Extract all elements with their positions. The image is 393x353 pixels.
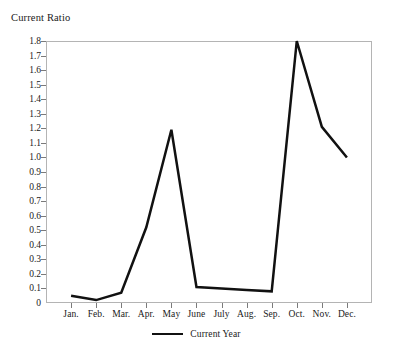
- y-axis-tick-mark: [41, 274, 46, 275]
- y-axis-tick-label: 0.7: [29, 196, 41, 206]
- chart-legend: Current Year: [0, 329, 393, 339]
- y-axis-tick-mark: [41, 114, 46, 115]
- plot-area: [46, 41, 372, 303]
- x-axis-tick-label: May: [163, 309, 181, 319]
- y-axis-tick-mark: [41, 143, 46, 144]
- x-axis-tick-mark: [171, 303, 172, 308]
- x-axis-tick-mark: [322, 303, 323, 308]
- x-axis-tick-mark: [272, 303, 273, 308]
- x-axis-tick-mark: [96, 303, 97, 308]
- legend-label-current-year: Current Year: [190, 329, 240, 339]
- x-axis-tick-mark: [146, 303, 147, 308]
- y-axis-tick-label: 1.2: [29, 123, 41, 133]
- y-axis-tick-mark: [41, 70, 46, 71]
- x-axis-tick-label: Aug.: [237, 309, 256, 319]
- x-axis-tick-label: Apr.: [138, 309, 155, 319]
- y-axis-tick-label: 0.5: [29, 225, 41, 235]
- y-axis-tick-label: 0.4: [29, 240, 41, 250]
- y-axis-tick-mark: [41, 157, 46, 158]
- y-axis-tick-mark: [41, 187, 46, 188]
- x-axis-tick-label: Jan.: [63, 309, 78, 319]
- x-axis-tick-mark: [71, 303, 72, 308]
- y-axis-tick-label: 1.1: [29, 138, 41, 148]
- x-axis-tick-label: Mar.: [112, 309, 130, 319]
- y-axis-tick-label: 0: [36, 298, 41, 308]
- y-axis-tick-label: 1.3: [29, 109, 41, 119]
- y-axis-tick-mark: [41, 56, 46, 57]
- x-axis-tick-label: Dec.: [338, 309, 356, 319]
- y-axis-tick-label: 0.1: [29, 283, 41, 293]
- x-axis-tick-mark: [297, 303, 298, 308]
- x-axis-tick-label: Nov.: [313, 309, 332, 319]
- y-axis-tick-label: 0.6: [29, 211, 41, 221]
- y-axis-tick-mark: [41, 85, 46, 86]
- x-axis-tick-mark: [247, 303, 248, 308]
- y-axis-tick-mark: [41, 216, 46, 217]
- y-axis-tick-label: 0.3: [29, 254, 41, 264]
- y-axis-tick-label: 1.8: [29, 36, 41, 46]
- y-axis-tick-label: 0.8: [29, 182, 41, 192]
- x-axis-tick-label: July: [213, 309, 229, 319]
- x-axis-tick-mark: [196, 303, 197, 308]
- y-axis-tick-mark: [41, 201, 46, 202]
- y-axis-tick-label: 1.6: [29, 65, 41, 75]
- x-axis-tick-mark: [121, 303, 122, 308]
- y-axis-tick-label: 0.2: [29, 269, 41, 279]
- legend-line-swatch: [152, 333, 183, 336]
- y-axis-tick-mark: [41, 288, 46, 289]
- y-axis-tick-label: 1.0: [29, 152, 41, 162]
- x-axis-tick-mark: [222, 303, 223, 308]
- y-axis-tick-label: 1.4: [29, 94, 41, 104]
- y-axis-tick-mark: [41, 259, 46, 260]
- y-axis-tick-labels: 1.81.71.61.51.41.31.21.11.00.90.80.70.60…: [0, 0, 41, 353]
- y-axis-tick-label: 0.9: [29, 167, 41, 177]
- y-axis-tick-mark: [41, 245, 46, 246]
- y-axis-tick-label: 1.5: [29, 80, 41, 90]
- x-axis-tick-label: Feb.: [88, 309, 105, 319]
- x-axis-tick-mark: [347, 303, 348, 308]
- y-axis-tick-label: 1.7: [29, 51, 41, 61]
- y-axis-tick-mark: [41, 99, 46, 100]
- y-axis-tick-mark: [41, 230, 46, 231]
- chart-figure: Current Ratio 1.81.71.61.51.41.31.21.11.…: [0, 0, 393, 353]
- y-axis-tick-mark: [41, 128, 46, 129]
- x-axis-tick-label: Oct.: [289, 309, 306, 319]
- y-axis-tick-mark: [41, 41, 46, 42]
- x-axis-tick-label: Sep.: [263, 309, 280, 319]
- y-axis-tick-mark: [41, 172, 46, 173]
- x-axis-tick-label: June: [188, 309, 206, 319]
